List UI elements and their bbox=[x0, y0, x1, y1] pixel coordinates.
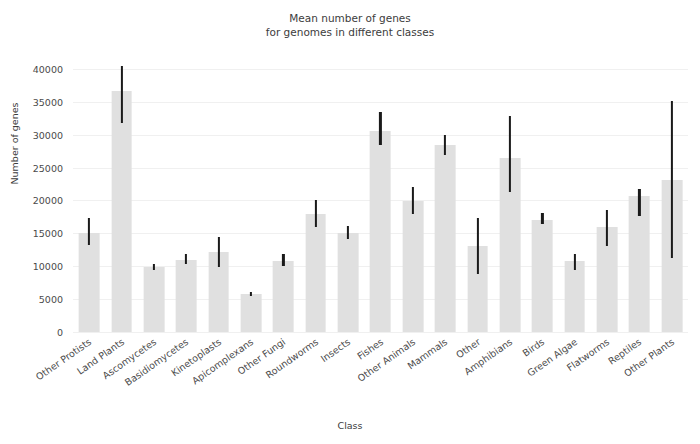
bar-group[interactable] bbox=[235, 59, 267, 332]
y-tick-label: 30000 bbox=[33, 129, 63, 140]
error-bar bbox=[476, 218, 478, 275]
bar[interactable] bbox=[111, 91, 132, 332]
bar-group[interactable] bbox=[364, 59, 396, 332]
bar-group[interactable] bbox=[494, 59, 526, 332]
y-tick-label: 35000 bbox=[33, 96, 63, 107]
bar[interactable] bbox=[176, 260, 197, 332]
bar[interactable] bbox=[241, 294, 262, 332]
bar-group[interactable] bbox=[267, 59, 299, 332]
bar-group[interactable] bbox=[526, 59, 558, 332]
bar-group[interactable] bbox=[202, 59, 234, 332]
error-bar bbox=[606, 210, 608, 247]
bar-group[interactable] bbox=[332, 59, 364, 332]
error-bar bbox=[88, 218, 90, 245]
bar[interactable] bbox=[79, 233, 100, 332]
y-tick-label: 10000 bbox=[33, 261, 63, 272]
bar[interactable] bbox=[370, 131, 391, 332]
chart-title: Mean number of genes for genomes in diff… bbox=[0, 12, 700, 39]
bar[interactable] bbox=[435, 145, 456, 332]
error-bar bbox=[347, 226, 349, 238]
bar-group[interactable] bbox=[138, 59, 170, 332]
bar-group[interactable] bbox=[300, 59, 332, 332]
error-bar bbox=[671, 101, 673, 258]
plot-area bbox=[73, 59, 688, 332]
y-tick-label: 5000 bbox=[39, 294, 63, 305]
bar-group[interactable] bbox=[429, 59, 461, 332]
error-bar bbox=[509, 116, 511, 192]
bar-group[interactable] bbox=[73, 59, 105, 332]
bar-group[interactable] bbox=[461, 59, 493, 332]
bar-group[interactable] bbox=[105, 59, 137, 332]
error-bar bbox=[218, 237, 220, 267]
bar[interactable] bbox=[338, 233, 359, 332]
bar[interactable] bbox=[564, 261, 585, 332]
error-bar bbox=[574, 254, 576, 270]
error-bar bbox=[120, 66, 122, 124]
error-bar bbox=[282, 254, 284, 265]
error-bar bbox=[185, 254, 187, 263]
chart-figure: Mean number of genes for genomes in diff… bbox=[0, 0, 700, 444]
error-bar bbox=[379, 112, 381, 146]
bar-group[interactable] bbox=[397, 59, 429, 332]
y-tick-label: 15000 bbox=[33, 228, 63, 239]
y-tick-label: 20000 bbox=[33, 195, 63, 206]
bar-group[interactable] bbox=[559, 59, 591, 332]
bar-group[interactable] bbox=[656, 59, 688, 332]
x-axis-title: Class bbox=[0, 420, 700, 431]
error-bar bbox=[315, 200, 317, 226]
error-bar bbox=[250, 292, 252, 296]
y-axis-title: Number of genes bbox=[9, 64, 20, 224]
bar[interactable] bbox=[305, 214, 326, 332]
error-bar bbox=[153, 264, 155, 271]
x-axis: Other ProtistsLand PlantsAscomycetesBasi… bbox=[73, 332, 688, 412]
y-tick-label: 0 bbox=[57, 327, 63, 338]
bar-group[interactable] bbox=[170, 59, 202, 332]
bar[interactable] bbox=[402, 201, 423, 332]
bar-group[interactable] bbox=[623, 59, 655, 332]
bar[interactable] bbox=[629, 196, 650, 332]
bar-group[interactable] bbox=[591, 59, 623, 332]
error-bar bbox=[638, 189, 640, 216]
bar[interactable] bbox=[144, 267, 165, 332]
error-bar bbox=[412, 187, 414, 214]
bar[interactable] bbox=[273, 261, 294, 332]
y-tick-label: 25000 bbox=[33, 162, 63, 173]
y-tick-label: 40000 bbox=[33, 63, 63, 74]
bar[interactable] bbox=[532, 220, 553, 332]
error-bar bbox=[444, 135, 446, 155]
error-bar bbox=[541, 213, 543, 224]
